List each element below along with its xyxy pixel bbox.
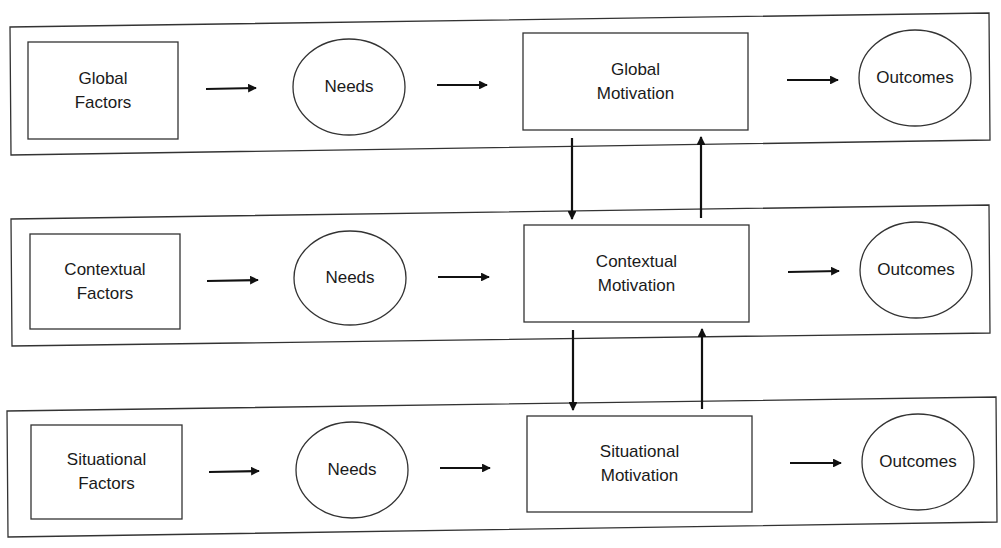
contextual-motivation-label: Contextual Motivation	[524, 225, 749, 322]
situational-factors-line1: Situational	[67, 448, 146, 472]
contextual-motivation-line1: Contextual	[596, 250, 677, 274]
global-outcomes-text: Outcomes	[876, 66, 953, 90]
contextual-motivation-line2: Motivation	[598, 274, 675, 298]
contextual-factors-line2: Factors	[77, 282, 134, 306]
contextual-outcomes-text: Outcomes	[877, 258, 954, 282]
situational-factors-line2: Factors	[78, 472, 135, 496]
arrow-global-factors-to-needs	[206, 88, 256, 89]
global-needs-label: Needs	[293, 39, 405, 135]
global-factors-line1: Global	[78, 67, 127, 91]
situational-motivation-line1: Situational	[600, 440, 679, 464]
global-factors-label: Global Factors	[28, 42, 178, 139]
contextual-factors-label: Contextual Factors	[30, 234, 180, 329]
situational-factors-label: Situational Factors	[31, 425, 182, 519]
contextual-needs-label: Needs	[294, 231, 406, 325]
situational-motivation-line2: Motivation	[601, 464, 678, 488]
arrow-contextual-factors-to-needs	[207, 280, 258, 281]
arrow-situational-factors-to-needs	[209, 471, 259, 472]
global-factors-line2: Factors	[75, 91, 132, 115]
situational-outcomes-text: Outcomes	[879, 450, 956, 474]
contextual-outcomes-label: Outcomes	[860, 222, 972, 318]
arrow-contextual-motivation-to-outcomes	[788, 271, 839, 272]
global-motivation-line2: Motivation	[597, 82, 674, 106]
global-needs-text: Needs	[324, 75, 373, 99]
situational-motivation-label: Situational Motivation	[527, 416, 752, 512]
global-motivation-line1: Global	[611, 58, 660, 82]
global-motivation-label: Global Motivation	[523, 33, 748, 130]
contextual-needs-text: Needs	[325, 266, 374, 290]
contextual-factors-line1: Contextual	[64, 258, 145, 282]
situational-needs-label: Needs	[296, 422, 408, 518]
situational-needs-text: Needs	[327, 458, 376, 482]
global-outcomes-label: Outcomes	[859, 30, 971, 126]
situational-outcomes-label: Outcomes	[862, 414, 974, 510]
